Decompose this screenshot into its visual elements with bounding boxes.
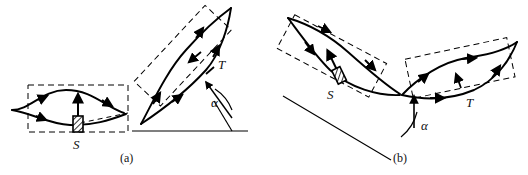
panel-b-arrow-right-upper-2	[462, 58, 476, 59]
panel-b-baseline	[283, 96, 391, 160]
panel-a	[12, 5, 248, 132]
panel-b-curve-right-upper	[402, 42, 517, 95]
panel-b-arrow-left-lower	[305, 42, 314, 54]
panel-a-label-alpha: α	[211, 96, 218, 109]
panel-b-label-t: T	[466, 96, 473, 109]
panel-b	[277, 15, 517, 160]
panel-a-angle-arrow	[206, 82, 232, 118]
panel-a-curve-left-upper	[12, 90, 124, 113]
panel-a-normal-arrow	[189, 52, 201, 62]
panel-b-label-s: S	[327, 88, 334, 101]
panel-b-s-block	[332, 67, 347, 84]
panel-b-label-alpha: α	[421, 119, 428, 132]
panel-a-caption: (a)	[120, 152, 133, 164]
panel-a-label-t: T	[218, 58, 225, 71]
panel-b-curve-left-upper	[288, 18, 400, 94]
panel-b-caption: (b)	[393, 152, 407, 164]
panel-a-arrow-right-lower	[172, 95, 182, 102]
panel-b-dashed-box-left	[277, 15, 387, 97]
panel-a-s-block	[73, 116, 83, 132]
panel-a-label-s: S	[73, 138, 80, 151]
panel-b-normal-arrow	[456, 74, 461, 88]
panel-a-marker-s	[73, 94, 83, 132]
panel-a-curve-left-lower	[12, 110, 126, 125]
panel-b-arrow-right-upper	[418, 74, 428, 82]
